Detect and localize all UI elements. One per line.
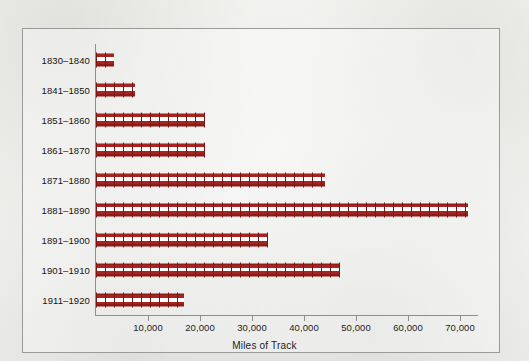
x-axis-tick-label: 40,000 — [289, 322, 319, 333]
category-label: 1901–1910 — [22, 265, 90, 276]
x-axis-tick — [408, 316, 409, 321]
category-label: 1841–1850 — [22, 85, 90, 96]
x-axis-tick-label: 20,000 — [185, 322, 215, 333]
x-axis-tick-label: 30,000 — [237, 322, 267, 333]
x-axis-title: Miles of Track — [0, 340, 529, 351]
category-label: 1881–1890 — [22, 205, 90, 216]
plot-area: 10,00020,00030,00040,00050,00060,00070,0… — [0, 0, 529, 361]
category-label: 1911–1920 — [22, 295, 90, 306]
railroad-tie-pattern — [96, 113, 205, 128]
x-axis-tick — [148, 316, 149, 321]
bar — [96, 144, 205, 157]
x-axis-tick — [200, 316, 201, 321]
railroad-tie-pattern — [96, 263, 340, 278]
bar — [96, 114, 205, 127]
bar — [96, 264, 340, 277]
chart-page: 10,00020,00030,00040,00050,00060,00070,0… — [0, 0, 529, 361]
x-axis-tick — [356, 316, 357, 321]
category-label: 1830–1840 — [22, 55, 90, 66]
category-label: 1891–1900 — [22, 235, 90, 246]
bar — [96, 174, 325, 187]
x-axis-tick — [304, 316, 305, 321]
railroad-tie-pattern — [96, 53, 114, 68]
bar — [96, 204, 468, 217]
railroad-tie-pattern — [96, 293, 184, 308]
railroad-tie-pattern — [96, 233, 268, 248]
railroad-tie-pattern — [96, 143, 205, 158]
railroad-tie-pattern — [96, 173, 325, 188]
bar — [96, 294, 184, 307]
x-axis-tick-label: 70,000 — [445, 322, 475, 333]
category-label: 1851–1860 — [22, 115, 90, 126]
railroad-tie-pattern — [96, 203, 468, 218]
bar — [96, 54, 114, 67]
x-axis-tick — [252, 316, 253, 321]
bar — [96, 84, 135, 97]
x-axis-line — [95, 315, 478, 316]
category-label: 1861–1870 — [22, 145, 90, 156]
bar — [96, 234, 268, 247]
category-label: 1871–1880 — [22, 175, 90, 186]
x-axis-tick — [460, 316, 461, 321]
railroad-tie-pattern — [96, 83, 135, 98]
x-axis-tick-label: 10,000 — [133, 322, 163, 333]
x-axis-tick-label: 50,000 — [341, 322, 371, 333]
x-axis-tick-label: 60,000 — [393, 322, 423, 333]
